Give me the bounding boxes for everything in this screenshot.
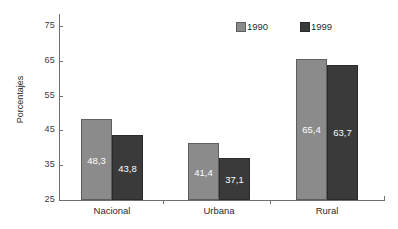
bar-value-label: 37,1	[220, 175, 249, 185]
y-tick-35	[59, 165, 63, 166]
bar-value-label: 41,4	[189, 168, 218, 178]
y-axis-line	[59, 14, 60, 201]
y-tick-label-65: 65	[29, 56, 55, 65]
legend-item-1999[interactable]: 1999	[300, 17, 332, 29]
legend-item-1990[interactable]: 1990	[236, 17, 268, 29]
y-tick-45	[59, 130, 63, 131]
y-tick-label-75: 75	[29, 21, 55, 30]
bar-value-label: 48,3	[82, 156, 111, 166]
x-axis-label-rural: Rural	[282, 205, 372, 216]
bar-urbana-1999[interactable]: 37,1	[219, 158, 250, 200]
y-tick-label-25: 25	[29, 195, 55, 204]
bar-rural-1999[interactable]: 63,7	[327, 65, 358, 200]
x-axis-tick-2	[270, 200, 271, 204]
x-axis-label-nacional: Nacional	[67, 205, 157, 216]
bar-nacional-1999[interactable]: 43,8	[112, 135, 143, 200]
y-tick-75	[59, 26, 63, 27]
bar-chart: Porcentajes 253545556575 48,343,841,437,…	[0, 0, 398, 229]
x-axis-end-cap	[384, 196, 385, 201]
legend-swatch-1999-icon	[300, 22, 310, 32]
bar-value-label: 63,7	[328, 128, 357, 138]
y-tick-label-35: 35	[29, 160, 55, 169]
bar-value-label: 65,4	[297, 125, 326, 135]
bar-value-label: 43,8	[113, 164, 142, 174]
x-axis-tick-1	[163, 200, 164, 204]
legend-label-1999: 1999	[311, 22, 332, 32]
y-tick-label-45: 45	[29, 125, 55, 134]
bar-rural-1990[interactable]: 65,4	[296, 59, 327, 200]
x-axis-line	[59, 200, 384, 201]
bar-nacional-1990[interactable]: 48,3	[81, 119, 112, 200]
y-tick-55	[59, 96, 63, 97]
x-axis-label-urbana: Urbana	[174, 205, 264, 216]
y-axis-title: Porcentajes	[16, 60, 25, 140]
legend-swatch-1990-icon	[236, 22, 246, 32]
y-tick-label-55: 55	[29, 91, 55, 100]
y-tick-65	[59, 61, 63, 62]
y-tick-25	[59, 200, 63, 201]
bar-urbana-1990[interactable]: 41,4	[188, 143, 219, 200]
legend-label-1990: 1990	[247, 22, 268, 32]
